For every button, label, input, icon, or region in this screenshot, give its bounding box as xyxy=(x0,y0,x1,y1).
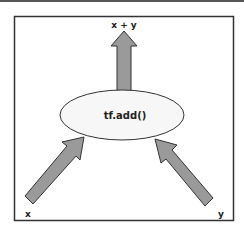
operation-label: tf.add() xyxy=(104,111,147,121)
output-label: x + y xyxy=(111,21,136,30)
input-label-y: y xyxy=(218,210,224,219)
input-label-x: x xyxy=(25,210,31,219)
